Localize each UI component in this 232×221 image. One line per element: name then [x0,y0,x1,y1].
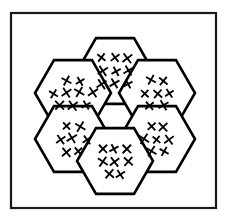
hexagon-layer [35,38,195,194]
hexagon-flower-diagram [0,0,232,221]
x-marks-group-top [97,53,134,89]
figure-root [0,0,232,221]
